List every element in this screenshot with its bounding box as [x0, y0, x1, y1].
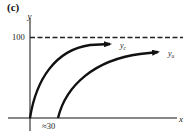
y-axis-label: y [27, 11, 32, 21]
yu-label: yu [167, 49, 175, 59]
x-tick-30: ≈30 [42, 121, 55, 131]
curve-yu [58, 52, 158, 118]
yc-label-sub: c [124, 45, 127, 51]
chart-canvas: y x 100 ≈30 yc yu [0, 0, 193, 138]
yc-label: yc [119, 41, 127, 51]
curve-yc [30, 44, 110, 118]
y-tick-100: 100 [12, 32, 25, 42]
yu-label-sub: u [172, 53, 175, 59]
x-axis-label: x [178, 114, 183, 124]
